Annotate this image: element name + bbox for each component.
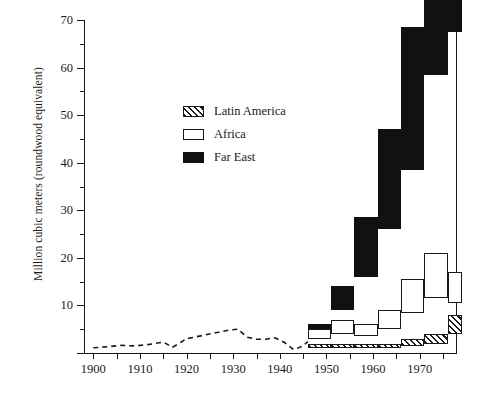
legend-label: Africa <box>214 127 246 142</box>
y-tick-major <box>77 20 84 21</box>
x-tick <box>350 353 351 359</box>
legend-item-latin-america: Latin America <box>183 101 286 121</box>
legend: Latin America Africa Far East <box>183 101 286 170</box>
x-tick <box>117 353 118 359</box>
x-tick-label: 1950 <box>314 362 339 377</box>
x-tick <box>210 353 211 359</box>
plot-area: 10203040506070 1900191019201930194019501… <box>84 20 457 353</box>
y-tick-major <box>77 353 84 354</box>
x-tick <box>187 353 188 359</box>
x-tick <box>373 353 374 359</box>
dashed-line-series <box>84 20 457 353</box>
y-tick-major <box>77 258 84 259</box>
legend-swatch-solid-icon <box>183 152 204 163</box>
y-tick-major <box>77 68 84 69</box>
x-tick <box>326 353 327 359</box>
y-tick-major <box>77 163 84 164</box>
y-tick-label: 30 <box>61 203 74 218</box>
legend-item-far-east: Far East <box>183 147 286 167</box>
x-tick <box>280 353 281 359</box>
x-tick <box>396 353 397 359</box>
legend-label: Far East <box>214 150 255 165</box>
x-tick <box>163 353 164 359</box>
y-tick-label: 20 <box>61 250 74 265</box>
x-tick-label: 1910 <box>127 362 152 377</box>
x-tick <box>303 353 304 359</box>
y-tick-label: 60 <box>61 60 74 75</box>
x-tick <box>140 353 141 359</box>
x-tick-label: 1940 <box>267 362 292 377</box>
x-tick-label: 1970 <box>407 362 432 377</box>
x-tick <box>257 353 258 359</box>
legend-swatch-hatch-icon <box>183 106 204 117</box>
y-tick-label: 70 <box>61 13 74 28</box>
x-tick-label: 1930 <box>221 362 246 377</box>
legend-item-africa: Africa <box>183 124 286 144</box>
y-tick-major <box>77 305 84 306</box>
y-tick-major <box>77 115 84 116</box>
y-tick-major <box>77 210 84 211</box>
y-axis-title: Million cubic meters (roundwood equivale… <box>32 24 44 324</box>
x-tick <box>93 353 94 359</box>
x-tick-label: 1900 <box>81 362 106 377</box>
y-tick-label: 10 <box>61 298 74 313</box>
y-tick-label: 40 <box>61 155 74 170</box>
chart-root: Million cubic meters (roundwood equivale… <box>0 0 479 401</box>
legend-label: Latin America <box>214 104 286 119</box>
x-tick-label: 1960 <box>361 362 386 377</box>
legend-swatch-open-icon <box>183 129 204 140</box>
x-tick <box>233 353 234 359</box>
x-tick <box>443 353 444 359</box>
y-tick-label: 50 <box>61 108 74 123</box>
x-tick-label: 1920 <box>174 362 199 377</box>
x-tick <box>420 353 421 359</box>
